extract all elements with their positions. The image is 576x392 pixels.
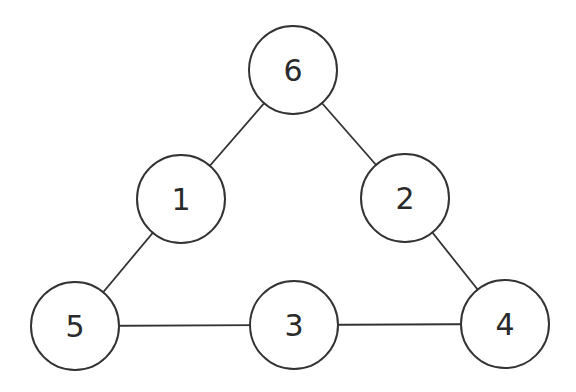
node-4: 4 bbox=[461, 280, 549, 368]
node-1: 1 bbox=[137, 155, 225, 243]
node-5: 5 bbox=[31, 282, 119, 370]
node-label: 3 bbox=[284, 308, 303, 343]
node-label: 6 bbox=[283, 53, 302, 88]
node-6: 6 bbox=[249, 26, 337, 114]
nodes-layer: 612534 bbox=[31, 26, 549, 370]
node-label: 4 bbox=[495, 307, 514, 342]
node-label: 1 bbox=[171, 182, 190, 217]
node-3: 3 bbox=[250, 281, 338, 369]
node-2: 2 bbox=[361, 154, 449, 242]
node-label: 2 bbox=[395, 181, 414, 216]
node-label: 5 bbox=[65, 309, 84, 344]
triangle-number-graph: 612534 bbox=[0, 0, 576, 392]
